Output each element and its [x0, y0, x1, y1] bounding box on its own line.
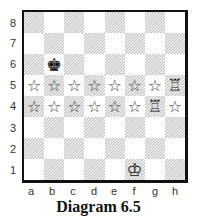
- rank-label-1: 1: [8, 164, 18, 176]
- square-f6: [125, 54, 145, 75]
- square-d4: ☆: [84, 96, 104, 117]
- square-f3: [125, 117, 145, 138]
- file-label-d: d: [88, 185, 100, 197]
- star-icon: ☆: [47, 78, 61, 94]
- square-h3: [165, 117, 185, 138]
- square-e6: [105, 54, 125, 75]
- rank-label-8: 8: [8, 17, 18, 29]
- square-a7: [24, 33, 44, 54]
- square-b7: [44, 33, 64, 54]
- square-g4: ♖: [145, 96, 165, 117]
- square-h2: [165, 138, 185, 159]
- square-e4: ☆: [105, 96, 125, 117]
- square-d6: [84, 54, 104, 75]
- star-icon: ☆: [87, 78, 101, 94]
- square-b6: ♚: [44, 54, 64, 75]
- square-h1: [165, 159, 185, 180]
- star-icon: ☆: [148, 78, 162, 94]
- square-c4: ☆: [64, 96, 84, 117]
- square-g8: [145, 12, 165, 33]
- square-f8: [125, 12, 145, 33]
- rank-label-2: 2: [8, 143, 18, 155]
- square-g1: [145, 159, 165, 180]
- black-king-icon: ♚: [46, 56, 62, 74]
- square-c3: [64, 117, 84, 138]
- rank-label-3: 3: [8, 122, 18, 134]
- square-e3: [105, 117, 125, 138]
- square-a3: [24, 117, 44, 138]
- square-a5: ☆: [24, 75, 44, 96]
- square-h7: [165, 33, 185, 54]
- square-e2: [105, 138, 125, 159]
- square-g7: [145, 33, 165, 54]
- square-a2: [24, 138, 44, 159]
- square-d5: ☆: [84, 75, 104, 96]
- square-c6: [64, 54, 84, 75]
- diagram-caption: Diagram 6.5: [0, 198, 197, 216]
- square-a6: [24, 54, 44, 75]
- square-d3: [84, 117, 104, 138]
- chess-board: ♚☆☆☆☆☆☆☆♖☆☆☆☆☆☆♖☆♔: [22, 10, 188, 183]
- file-label-c: c: [67, 185, 79, 197]
- square-h5: ♖: [165, 75, 185, 96]
- rank-label-4: 4: [8, 100, 18, 112]
- square-f2: [125, 138, 145, 159]
- square-b3: [44, 117, 64, 138]
- square-g3: [145, 117, 165, 138]
- square-b1: [44, 159, 64, 180]
- square-e5: ☆: [105, 75, 125, 96]
- square-h4: ☆: [165, 96, 185, 117]
- white-king-icon: ♔: [127, 161, 143, 179]
- star-icon: ☆: [47, 99, 61, 115]
- square-e1: [105, 159, 125, 180]
- star-icon: ☆: [67, 99, 81, 115]
- square-d8: [84, 12, 104, 33]
- square-h8: [165, 12, 185, 33]
- square-d2: [84, 138, 104, 159]
- square-a4: ☆: [24, 96, 44, 117]
- square-d1: [84, 159, 104, 180]
- star-icon: ☆: [128, 99, 142, 115]
- white-rook-icon: ♖: [167, 77, 182, 94]
- square-b8: [44, 12, 64, 33]
- file-label-e: e: [108, 185, 120, 197]
- square-d7: [84, 33, 104, 54]
- file-label-a: a: [25, 185, 37, 197]
- file-label-h: h: [169, 185, 181, 197]
- square-g6: [145, 54, 165, 75]
- star-icon: ☆: [168, 99, 182, 115]
- file-label-b: b: [46, 185, 58, 197]
- square-c2: [64, 138, 84, 159]
- square-f5: ☆: [125, 75, 145, 96]
- star-icon: ☆: [107, 78, 121, 94]
- square-f4: ☆: [125, 96, 145, 117]
- square-b4: ☆: [44, 96, 64, 117]
- white-rook-icon: ♖: [147, 98, 162, 115]
- square-g5: ☆: [145, 75, 165, 96]
- square-h6: [165, 54, 185, 75]
- square-c1: [64, 159, 84, 180]
- star-icon: ☆: [67, 78, 81, 94]
- square-f1: ♔: [125, 159, 145, 180]
- square-e7: [105, 33, 125, 54]
- square-a1: [24, 159, 44, 180]
- square-g2: [145, 138, 165, 159]
- star-icon: ☆: [128, 78, 142, 94]
- star-icon: ☆: [27, 99, 41, 115]
- rank-label-7: 7: [8, 37, 18, 49]
- rank-label-5: 5: [8, 79, 18, 91]
- square-b5: ☆: [44, 75, 64, 96]
- square-f7: [125, 33, 145, 54]
- star-icon: ☆: [87, 99, 101, 115]
- file-label-f: f: [128, 185, 140, 197]
- file-label-g: g: [149, 185, 161, 197]
- star-icon: ☆: [107, 99, 121, 115]
- square-c7: [64, 33, 84, 54]
- rank-label-6: 6: [8, 58, 18, 70]
- star-icon: ☆: [27, 78, 41, 94]
- square-c8: [64, 12, 84, 33]
- square-a8: [24, 12, 44, 33]
- square-c5: ☆: [64, 75, 84, 96]
- square-e8: [105, 12, 125, 33]
- square-b2: [44, 138, 64, 159]
